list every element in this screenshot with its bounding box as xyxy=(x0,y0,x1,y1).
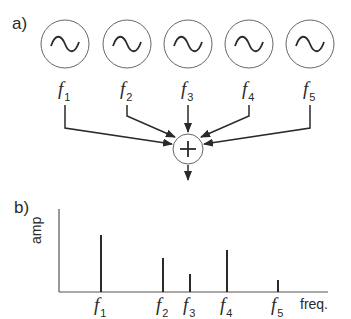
tick-label-5: f5 xyxy=(271,294,283,319)
tick-label-4: f4 xyxy=(220,294,232,319)
y-axis-label: amp xyxy=(28,217,44,244)
tick-label-3: f3 xyxy=(183,294,195,319)
oscillator-label-1: f1 xyxy=(58,78,70,103)
oscillator-4 xyxy=(225,20,273,68)
panel-b-label: b) xyxy=(14,198,29,218)
oscillator-label-3: f3 xyxy=(181,78,193,103)
path-f5 xyxy=(204,105,310,144)
sine-wave-icon xyxy=(113,37,141,52)
oscillator-label-4: f4 xyxy=(242,78,254,103)
x-axis-label: freq. xyxy=(300,296,328,312)
oscillator-3 xyxy=(164,20,212,68)
oscillator-5 xyxy=(286,20,334,68)
path-f1 xyxy=(65,105,172,144)
oscillator-label-5: f5 xyxy=(303,78,315,103)
summing-junction xyxy=(173,134,203,164)
path-f2 xyxy=(127,105,175,137)
diagram-canvas xyxy=(0,0,351,319)
path-f4 xyxy=(201,105,249,137)
sine-wave-icon xyxy=(51,37,79,52)
sine-wave-icon xyxy=(174,37,202,52)
oscillator-label-2: f2 xyxy=(120,78,132,103)
panel-a-label: a) xyxy=(12,14,27,34)
spectrum-axes xyxy=(59,209,328,292)
tick-label-1: f1 xyxy=(94,294,106,319)
sine-wave-icon xyxy=(235,37,263,52)
spectrum-lines xyxy=(101,235,278,292)
tick-label-2: f2 xyxy=(156,294,168,319)
sine-wave-icon xyxy=(296,37,324,52)
oscillator-2 xyxy=(103,20,151,68)
oscillator-1 xyxy=(41,20,89,68)
